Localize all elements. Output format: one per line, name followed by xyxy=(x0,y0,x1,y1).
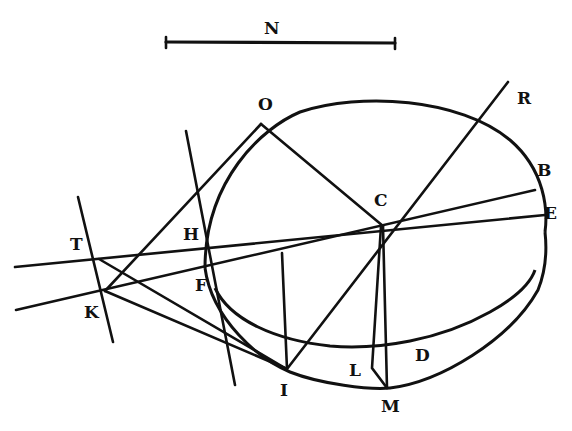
label-C: C xyxy=(374,190,388,210)
line-T-E xyxy=(15,215,545,267)
label-R: R xyxy=(517,88,532,108)
line-O-C xyxy=(261,124,383,226)
label-L: L xyxy=(349,360,361,380)
line-I-R xyxy=(287,82,508,369)
label-O: O xyxy=(258,94,273,114)
label-E: E xyxy=(544,203,557,223)
ordinate-to-I xyxy=(282,253,287,369)
label-D: D xyxy=(415,345,430,365)
label-T: T xyxy=(70,234,83,254)
geometric-diagram: N O R B E C T H F K I L D M xyxy=(0,0,572,431)
label-N: N xyxy=(264,18,280,38)
label-B: B xyxy=(537,160,551,180)
label-I: I xyxy=(280,380,288,400)
label-F: F xyxy=(195,275,207,295)
scale-bar xyxy=(166,37,395,49)
label-M: M xyxy=(381,396,400,416)
line-K-O xyxy=(105,124,261,291)
line-T-I xyxy=(99,259,285,368)
line-C-M xyxy=(383,226,387,388)
line-K-I xyxy=(105,291,285,368)
label-H: H xyxy=(183,224,199,244)
label-K: K xyxy=(84,302,100,322)
line-K-B xyxy=(16,190,535,310)
tangent-H-F xyxy=(186,131,235,385)
